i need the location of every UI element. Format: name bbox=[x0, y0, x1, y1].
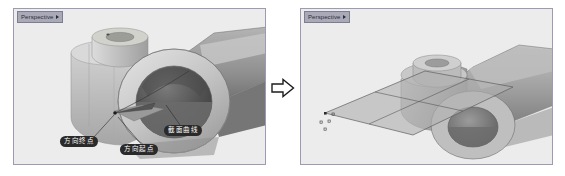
right-arrow-icon bbox=[271, 78, 295, 98]
screenshot-root: 方向终点 方向起点 截面曲线 Perspective bbox=[0, 0, 565, 176]
model-scene-right bbox=[301, 9, 553, 165]
callout-direction-end: 方向终点 bbox=[60, 136, 98, 147]
callout-section-curve: 截面曲线 bbox=[164, 125, 202, 136]
model-scene-left bbox=[14, 9, 266, 165]
viewport-right-title-tab[interactable]: Perspective bbox=[304, 11, 350, 23]
transition-right-arrow bbox=[271, 78, 295, 98]
callout-direction-start: 方向起点 bbox=[120, 144, 158, 155]
control-point-anchor[interactable] bbox=[324, 112, 327, 115]
chevron-down-icon[interactable] bbox=[56, 15, 59, 19]
model-boss-hole bbox=[106, 32, 134, 41]
viewport-perspective-left[interactable]: 方向终点 方向起点 截面曲线 Perspective bbox=[13, 8, 266, 165]
model-boss-right-hole bbox=[425, 59, 449, 67]
direction-start-point-marker bbox=[113, 111, 117, 115]
viewport-left-canvas[interactable]: 方向终点 方向起点 截面曲线 bbox=[14, 9, 265, 164]
viewport-right-canvas[interactable] bbox=[301, 9, 552, 164]
model-boss-marker bbox=[106, 33, 109, 35]
viewport-left-title-tab[interactable]: Perspective bbox=[17, 11, 63, 23]
viewport-right-title-label: Perspective bbox=[308, 13, 340, 21]
chevron-down-icon[interactable] bbox=[343, 15, 346, 19]
viewport-perspective-right[interactable]: Perspective bbox=[300, 8, 553, 165]
viewport-left-title-label: Perspective bbox=[21, 13, 53, 21]
